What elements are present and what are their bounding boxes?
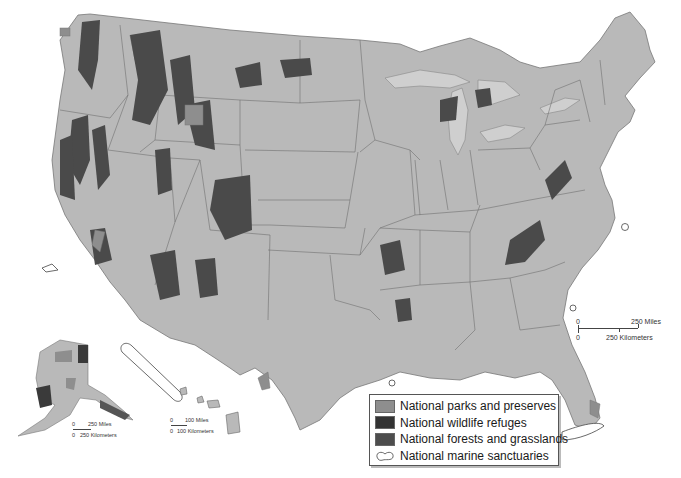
legend-label-wildlife-refuges: National wildlife refuges [400, 416, 527, 430]
conus-scale-tick [578, 325, 579, 333]
conus-scale-line [578, 328, 638, 329]
alaska-scale-zero-top: 0 [72, 421, 75, 427]
conus-scale-zero-top: 0 [576, 318, 580, 325]
legend-item-wildlife-refuges: National wildlife refuges [375, 415, 553, 432]
alaska-scale-zero-bottom: 0 [72, 432, 75, 438]
legend-label-forests: National forests and grasslands [400, 432, 568, 446]
forests-swatch-icon [375, 433, 395, 446]
conus-scale-bar: 0 250 Miles 0 250 Kilometers [576, 318, 656, 348]
alaska-scale-line [73, 429, 91, 430]
conus-scale-tick [638, 324, 639, 328]
conus-scale-km: 250 Kilometers [606, 334, 653, 341]
map-legend: National parks and preserves National wi… [369, 394, 559, 466]
us-federal-lands-map [0, 0, 681, 478]
marine-sanctuary-outline-icon [375, 449, 395, 462]
alaska-scale-miles: 250 Miles [88, 421, 112, 427]
legend-item-forests: National forests and grasslands [375, 431, 553, 448]
conus-scale-tick [619, 328, 620, 332]
hawaii-scale-zero-bottom: 0 [170, 428, 173, 434]
legend-item-parks: National parks and preserves [375, 398, 553, 415]
legend-label-marine-sanctuaries: National marine sanctuaries [400, 449, 549, 463]
legend-label-parks: National parks and preserves [400, 399, 556, 413]
hawaii-scale-line [171, 425, 187, 426]
conus-scale-zero-bottom: 0 [576, 334, 580, 341]
hawaii-scale-miles: 100 Miles [185, 417, 209, 423]
alaska-scale-bar: 0 250 Miles 0 250 Kilometers [72, 421, 132, 445]
alaska-scale-km: 250 Kilometers [80, 432, 117, 438]
hawaii-scale-km: 100 Kilometers [177, 428, 214, 434]
hawaii-scale-bar: 0 100 Miles 0 100 Kilometers [170, 417, 230, 441]
parks-swatch-icon [375, 400, 395, 413]
conus-scale-miles: 250 Miles [631, 318, 661, 325]
wildlife-refuges-swatch-icon [375, 416, 395, 429]
alaska-refuge [78, 345, 88, 363]
legend-item-marine-sanctuaries: National marine sanctuaries [375, 448, 553, 465]
hawaii-scale-zero-top: 0 [170, 417, 173, 423]
